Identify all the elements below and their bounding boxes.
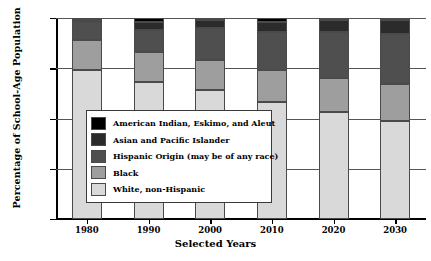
x-tick-label-2010: 2010 — [242, 225, 302, 235]
x-axis-line — [56, 218, 426, 220]
bar-segment — [380, 20, 410, 34]
legend-item: Asian and Pacific Islander — [91, 132, 266, 149]
legend-item-label: Hispanic Origin (may be of any race) — [113, 152, 278, 160]
legend-item: White, non-Hispanic — [91, 181, 266, 198]
x-tick-label-1990: 1990 — [119, 225, 179, 235]
bar-segment — [319, 78, 349, 112]
x-tick-label-2020: 2020 — [304, 225, 364, 235]
bar-segment — [380, 18, 410, 20]
bar-segment — [380, 121, 410, 219]
bar-segment — [319, 112, 349, 219]
legend-swatch-icon — [91, 117, 106, 130]
x-tick-2010 — [272, 219, 273, 224]
bar-segment — [134, 22, 164, 30]
bar-segment — [380, 84, 410, 120]
y-axis-title: Percentage of School-Age Population — [11, 9, 22, 209]
bar-segment — [72, 40, 102, 70]
bar-2030 — [380, 18, 410, 219]
legend-swatch-icon — [91, 166, 106, 179]
x-tick-2020 — [334, 219, 335, 224]
bar-segment — [257, 18, 287, 22]
bar-segment — [134, 52, 164, 82]
legend-item-label: White, non-Hispanic — [113, 185, 205, 193]
bar-segment — [319, 18, 349, 20]
y-tick-0 — [50, 219, 56, 220]
legend-item: Black — [91, 165, 266, 182]
legend-item-label: Asian and Pacific Islander — [113, 136, 229, 144]
x-tick-label-2030: 2030 — [365, 225, 425, 235]
bar-segment — [195, 28, 225, 60]
x-tick-label-1980: 1980 — [57, 225, 117, 235]
gridline-100 — [56, 18, 426, 19]
stacked-bar-chart: Percentage of School-Age Population 1980… — [0, 0, 431, 261]
legend-swatch-icon — [91, 133, 106, 146]
x-axis-title: Selected Years — [0, 238, 431, 249]
bar-segment — [257, 70, 287, 102]
bar-segment — [257, 22, 287, 32]
x-tick-1990 — [149, 219, 150, 224]
x-tick-2000 — [210, 219, 211, 224]
bar-segment — [195, 18, 225, 20]
gridline-75 — [56, 68, 426, 69]
bar-segment — [257, 32, 287, 70]
legend-swatch-icon — [91, 150, 106, 163]
bar-segment — [134, 30, 164, 52]
bar-segment — [195, 20, 225, 28]
x-tick-1980 — [87, 219, 88, 224]
x-tick-2030 — [395, 219, 396, 224]
legend-swatch-icon — [91, 183, 106, 196]
legend-item: Hispanic Origin (may be of any race) — [91, 148, 266, 165]
bar-segment — [380, 34, 410, 84]
y-tick-75 — [50, 68, 56, 69]
bar-segment — [319, 20, 349, 32]
legend-item-label: Black — [113, 169, 138, 177]
y-tick-50 — [50, 119, 56, 120]
bar-2020 — [319, 18, 349, 219]
bar-segment — [72, 18, 102, 20]
bar-segment — [72, 22, 102, 40]
y-tick-100 — [50, 18, 56, 19]
bar-segment — [195, 60, 225, 90]
bar-segment — [134, 18, 164, 22]
x-tick-label-2000: 2000 — [180, 225, 240, 235]
chart-legend: American Indian, Eskimo, and AleutAsian … — [86, 110, 272, 203]
bar-segment — [319, 32, 349, 78]
bar-segment — [72, 20, 102, 22]
y-tick-25 — [50, 169, 56, 170]
legend-item: American Indian, Eskimo, and Aleut — [91, 115, 266, 132]
legend-item-label: American Indian, Eskimo, and Aleut — [113, 119, 275, 127]
